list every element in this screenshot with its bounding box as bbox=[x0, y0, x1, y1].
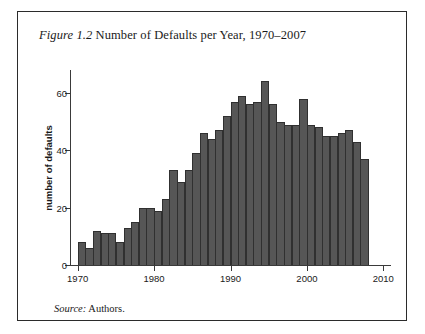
x-tick-mark bbox=[78, 266, 79, 271]
figure-label: Figure 1.2 bbox=[39, 28, 92, 42]
y-tick-label: 40 bbox=[56, 145, 67, 156]
figure-frame: Figure 1.2 Number of Defaults per Year, … bbox=[17, 11, 407, 321]
bar bbox=[360, 159, 368, 265]
y-axis-title: number of defaults bbox=[42, 70, 56, 266]
x-tick-mark bbox=[231, 266, 232, 271]
x-tick-mark bbox=[154, 266, 155, 271]
x-tick-label: 1990 bbox=[220, 273, 241, 284]
x-tick-label: 1970 bbox=[67, 273, 88, 284]
y-tick-label: 60 bbox=[56, 87, 67, 98]
x-tick-mark bbox=[383, 266, 384, 271]
source-note: Source: Authors. bbox=[54, 303, 125, 314]
x-tick-mark bbox=[307, 266, 308, 271]
x-tick-label: 2000 bbox=[296, 273, 317, 284]
source-label: Source: bbox=[54, 303, 86, 314]
x-tick-label: 2010 bbox=[373, 273, 394, 284]
figure-caption-text: Number of Defaults per Year, 1970–2007 bbox=[96, 28, 307, 42]
figure-caption: Figure 1.2 Number of Defaults per Year, … bbox=[39, 28, 306, 43]
x-tick-label: 1980 bbox=[143, 273, 164, 284]
y-tick-label: 0 bbox=[62, 260, 67, 271]
y-tick-label: 20 bbox=[56, 202, 67, 213]
plot-area: 0204060 19701980199020002010 bbox=[70, 70, 391, 266]
bar-series bbox=[71, 70, 391, 265]
source-value: Authors. bbox=[88, 303, 124, 314]
